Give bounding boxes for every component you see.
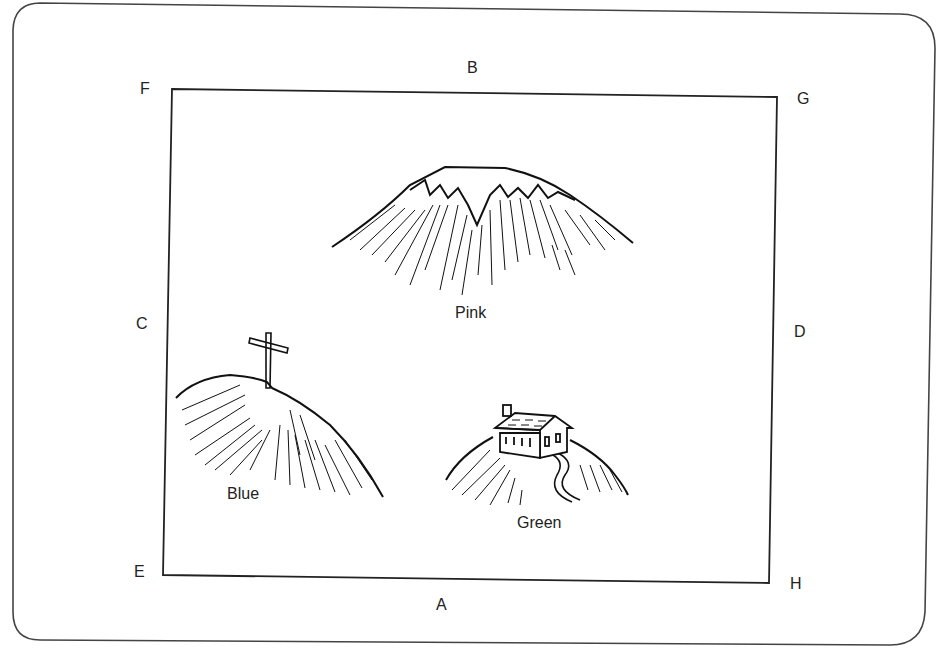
label-b: B: [467, 59, 478, 77]
label-g: G: [797, 90, 809, 108]
hill-label-pink: Pink: [455, 304, 486, 322]
label-d: D: [794, 323, 806, 341]
label-a: A: [436, 596, 447, 614]
green-hill-icon: [446, 405, 628, 505]
pink-mountain-icon: [332, 167, 633, 295]
hill-label-green: Green: [517, 514, 561, 532]
house-icon: [495, 405, 572, 458]
label-f: F: [140, 80, 150, 98]
winding-path: [558, 453, 580, 500]
cross-icon: [249, 333, 288, 388]
label-c: C: [136, 315, 148, 333]
inner-map-frame: [163, 89, 777, 583]
blue-hill-icon: [176, 333, 383, 497]
hill-label-blue: Blue: [227, 485, 259, 503]
label-e: E: [134, 563, 145, 581]
label-h: H: [790, 575, 802, 593]
